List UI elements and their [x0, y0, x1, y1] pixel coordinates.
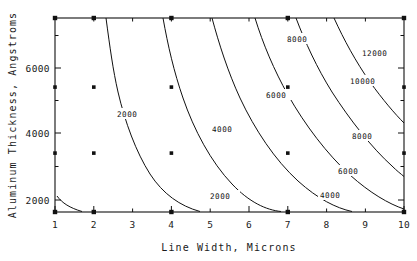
contour-label-2000-upper: 2000 [117, 110, 137, 119]
x-tick-label: 9 [362, 219, 368, 230]
contour-label-4000-upper: 4000 [212, 125, 232, 134]
x-tick-label: 7 [285, 219, 291, 230]
plot-canvas: 2000 2000 4000 4000 6000 6000 8000 8000 … [0, 0, 417, 261]
y-tick-label: 2000 [26, 195, 50, 206]
data-point-markers [53, 16, 406, 214]
contour-label-6000-upper: 6000 [266, 91, 286, 100]
contour-label-8000-lower: 8000 [352, 132, 372, 141]
contour-curve-12000 [334, 18, 404, 123]
x-tick-label: 3 [130, 219, 136, 230]
contour-label-12000: 12000 [362, 49, 387, 58]
y-axis-ticks [55, 36, 61, 201]
x-tick-label: 10 [398, 219, 410, 230]
x-tick-label: 5 [207, 219, 213, 230]
x-tick-label: 1 [52, 219, 58, 230]
contour-label-4000-lower: 4000 [320, 191, 340, 200]
contour-label-group: 2000 2000 4000 4000 6000 6000 8000 8000 … [115, 33, 399, 201]
x-tick-label: 4 [168, 219, 174, 230]
contour-label-10000: 10000 [350, 77, 375, 86]
x-axis-title: Line Width, Microns [161, 242, 296, 253]
x-tick-label: 6 [246, 219, 252, 230]
x-tick-label: 2 [91, 219, 97, 230]
plot-frame [55, 18, 404, 212]
contour-lines [57, 18, 404, 212]
x-tick-labels: 1 2 3 4 5 6 7 8 9 10 [52, 219, 410, 230]
contour-label-6000-lower: 6000 [338, 167, 358, 176]
contour-curve-4000 [163, 18, 281, 212]
y-tick-label: 6000 [26, 63, 50, 74]
y-axis-title: Aluminum Thickness, Angstroms [7, 12, 18, 219]
y-tick-labels: 6000 4000 2000 [26, 63, 50, 206]
contour-curve-8000 [255, 18, 404, 209]
contour-label-8000-upper: 8000 [287, 35, 307, 44]
y-tick-label: 4000 [26, 128, 50, 139]
contour-curve-0 [57, 196, 82, 212]
x-tick-label: 8 [324, 219, 330, 230]
contour-curve-6000 [212, 18, 352, 212]
contour-plot-figure: 2000 2000 4000 4000 6000 6000 8000 8000 … [0, 0, 417, 261]
contour-label-2000-lower: 2000 [210, 192, 230, 201]
